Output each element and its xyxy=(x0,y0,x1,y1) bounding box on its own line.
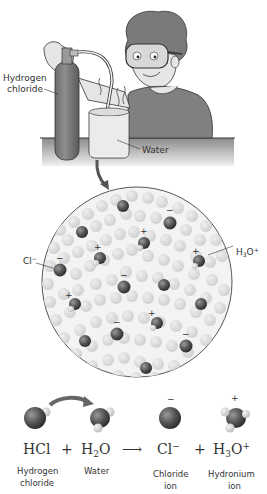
hydronium-callout-label: H3O+ xyxy=(236,246,259,258)
svg-text:+: + xyxy=(94,242,102,252)
water-label: Water xyxy=(142,145,169,155)
svg-text:+: + xyxy=(231,393,239,403)
hcl-formula: HCl xyxy=(23,441,51,457)
hcl-gas-cylinder xyxy=(55,62,79,160)
water-caption: Water xyxy=(84,466,110,476)
chloride-ion xyxy=(79,335,91,347)
water-molecule xyxy=(90,408,115,433)
svg-text:−: − xyxy=(167,394,175,404)
hydronium-ion-model: + xyxy=(221,393,251,433)
chloride-ion-model: − xyxy=(159,394,181,429)
goggles xyxy=(126,44,168,68)
svg-text:+: + xyxy=(148,308,156,318)
svg-text:−: − xyxy=(182,329,190,339)
svg-text:−: − xyxy=(166,205,174,215)
svg-text:+: + xyxy=(140,226,148,236)
svg-text:−: − xyxy=(56,253,64,263)
hcl-dissolution-diagram: Hydrogen chloride Water xyxy=(0,0,267,494)
reaction-equation: − + HCl + H2O ⟶ Cl− + H3O+ Hydrogen chlo… xyxy=(17,393,255,491)
reaction-arrow: ⟶ xyxy=(122,441,142,457)
hcl-caption: Hydrogen xyxy=(17,466,58,476)
proton-transfer-arrow xyxy=(50,398,88,405)
water-in-beaker xyxy=(90,116,128,156)
chloride-ion xyxy=(140,362,152,374)
hydronium-caption: Hydronium xyxy=(208,469,255,479)
chloride-ion xyxy=(195,298,207,310)
svg-text:−: − xyxy=(120,270,128,280)
svg-text:+: + xyxy=(192,246,200,256)
hydronium-formula: H3O+ xyxy=(213,441,250,459)
lab-scene: Hydrogen chloride Water xyxy=(3,11,235,166)
svg-text:+: + xyxy=(65,290,73,300)
cylinder-label: Hydrogen xyxy=(3,73,47,83)
svg-text:chloride: chloride xyxy=(20,478,54,488)
molecular-view-circle: − − − − − + + + + + Cl− H3O+ xyxy=(23,187,259,384)
svg-text:ion: ion xyxy=(228,481,241,491)
hcl-molecule xyxy=(24,407,51,429)
chloride-ion xyxy=(117,200,129,212)
svg-text:ion: ion xyxy=(164,481,177,491)
water-formula: H2O xyxy=(81,441,110,459)
chloride-caption: Chloride xyxy=(153,469,188,479)
chloride-callout-label: Cl− xyxy=(23,255,37,266)
plus-sign: + xyxy=(61,441,73,457)
plus-sign: + xyxy=(194,441,206,457)
person-arm xyxy=(78,78,130,108)
svg-text:−: − xyxy=(113,317,121,327)
person-shirt xyxy=(128,86,212,138)
chloride-formula: Cl− xyxy=(157,441,180,457)
chloride-ion xyxy=(158,279,170,291)
svg-text:chloride: chloride xyxy=(7,84,44,94)
chloride-ion xyxy=(76,226,88,238)
